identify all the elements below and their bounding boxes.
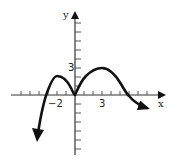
x-tick-label-3: 3: [99, 98, 105, 109]
function-graph: y x −2 3 3: [0, 0, 174, 164]
x-axis: [11, 91, 164, 95]
x-axis-label: x: [158, 98, 164, 109]
y-tick-label-3: 3: [68, 62, 74, 73]
y-axis-label: y: [62, 9, 69, 20]
x-tick-label-neg2: −2: [48, 98, 63, 109]
left-arrowhead-icon: [32, 128, 44, 142]
